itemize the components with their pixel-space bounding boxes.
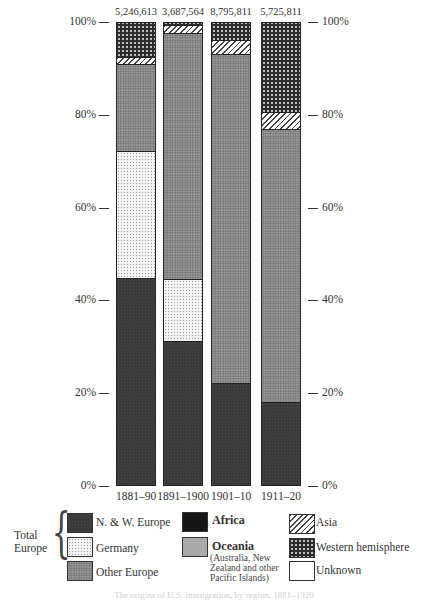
legend-swatch-oceania [182,537,208,557]
legend-group-label-line2: Europe [14,542,47,555]
legend-swatch-africa [182,512,208,532]
legend-label-asia: Asia [316,516,337,528]
bar-segment-n-w-europe [212,383,250,485]
right-tick-label: 100% [322,15,349,27]
legend-swatch-nw-europe [67,513,93,533]
legend-label-western-hemisphere: Western hemisphere [316,541,409,553]
bar-segment-germany [164,279,202,341]
bar-segment-other-europe [262,129,300,402]
left-tick-mark [99,300,109,301]
bar-segment-asia [262,112,300,129]
bar-1 [163,22,203,486]
bar-segment-n-w-europe [164,341,202,485]
left-tick-mark [99,393,109,394]
legend-label-unknown: Unknown [316,564,361,576]
left-tick-label: 0% [50,479,96,491]
legend-label-africa: Africa [212,513,245,528]
figure-caption: The origins of U.S. immigration, by regi… [0,590,428,600]
bar-segment-western-hemisphere [164,22,202,25]
bar-segment-asia [117,57,155,64]
right-tick-mark [308,393,318,394]
legend-swatch-unknown [289,561,315,581]
bar-3 [261,22,301,486]
legend-label-other-europe: Other Europe [96,566,158,578]
bar-2 [211,22,251,486]
right-tick-mark [308,22,318,23]
legend-group-label: Total Europe [14,529,47,555]
legend-group-label-line1: Total [14,529,47,542]
bar-total-label: 5,725,811 [251,6,311,17]
bar-segment-n-w-europe [262,402,300,485]
legend-label-germany: Germany [96,542,139,554]
bar-segment-asia [164,25,202,33]
legend-label-oceania: Oceania [212,539,254,554]
legend-swatch-other-europe [67,561,93,581]
right-tick-label: 20% [322,386,343,398]
right-tick-mark [308,486,318,487]
category-label: 1911–20 [251,490,311,502]
left-tick-label: 100% [50,15,96,27]
left-tick-mark [99,22,109,23]
left-tick-label: 40% [50,293,96,305]
right-tick-label: 80% [322,108,343,120]
left-tick-label: 60% [50,201,96,213]
right-tick-label: 0% [322,479,337,491]
bar-segment-western-hemisphere [117,22,155,57]
left-tick-mark [99,208,109,209]
legend-label-nw-europe: N. & W. Europe [96,516,170,528]
bar-segment-germany [117,151,155,278]
left-tick-label: 20% [50,386,96,398]
right-tick-mark [308,208,318,209]
legend-swatch-germany [67,537,93,557]
right-tick-mark [308,300,318,301]
bar-segment-other-europe [164,33,202,279]
bar-segment-western-hemisphere [212,22,250,40]
bar-segment-asia [212,40,250,54]
left-tick-label: 80% [50,108,96,120]
bar-segment-n-w-europe [117,278,155,485]
right-tick-mark [308,115,318,116]
left-tick-mark [99,486,109,487]
legend-swatch-western-hemisphere [289,538,315,558]
legend-swatch-asia [289,514,315,534]
bar-0 [116,22,156,486]
bar-segment-western-hemisphere [262,22,300,112]
right-tick-label: 40% [322,293,343,305]
left-tick-mark [99,115,109,116]
bar-segment-other-europe [117,64,155,151]
right-tick-label: 60% [322,201,343,213]
bar-segment-other-europe [212,54,250,383]
